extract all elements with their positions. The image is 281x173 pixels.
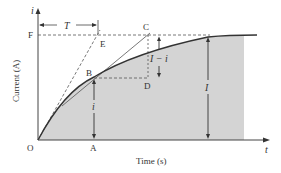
x-axis-label: Time (s) (136, 156, 166, 166)
remaining-current-label: I − i (149, 53, 168, 64)
time-constant-label: T (64, 20, 71, 31)
point-label-d: D (144, 81, 151, 91)
y-axis-arrow-icon (36, 8, 41, 14)
point-label-f: F (28, 30, 33, 40)
i-remaining-arrow-up-head-icon (157, 37, 161, 42)
point-label-o: O (27, 143, 34, 153)
y-axis-symbol: i (31, 5, 34, 16)
point-label-e: E (100, 39, 106, 49)
instant-current-label: i (92, 101, 95, 112)
point-label-b: B (86, 68, 92, 78)
point-label-a: A (90, 143, 97, 153)
t-arrow-right-head-icon (92, 23, 97, 27)
t-arrow-left-head-icon (39, 23, 44, 27)
x-axis-arrow-icon (263, 138, 270, 143)
x-axis-symbol: t (265, 144, 268, 155)
current-growth-diagram: i t Current (A) Time (s) O A B C D E F T… (0, 0, 281, 173)
point-label-c: C (143, 22, 149, 32)
area-under-curve (38, 35, 244, 140)
final-current-label: I (204, 82, 209, 93)
y-axis-label: Current (A) (11, 60, 21, 102)
